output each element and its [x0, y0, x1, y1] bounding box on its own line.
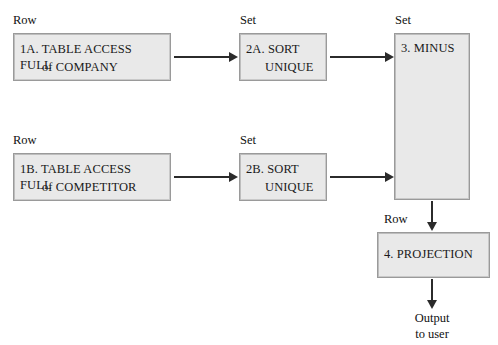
- arrowhead-2b-to-minus: [385, 172, 394, 182]
- diagram-canvas: Row Set Set Row Set Row 1A. TABLE ACCESS…: [0, 0, 498, 345]
- arrowhead-2a-to-minus: [385, 52, 394, 62]
- node-1a-line2: of COMPANY: [42, 59, 166, 75]
- connector-minus-to-projection: [431, 201, 433, 224]
- node-4-line1: 4. PROJECTION: [384, 246, 485, 262]
- node-projection[interactable]: 4. PROJECTION: [377, 232, 490, 278]
- connector-projection-to-output: [431, 279, 433, 302]
- node-sort-unique-b[interactable]: 2B. SORT UNIQUE: [239, 153, 327, 201]
- node-2a-line1: 2A. SORT: [246, 41, 322, 57]
- arrowhead-1a-to-2a: [229, 52, 238, 62]
- caption-row-above-projection: Row: [384, 212, 408, 227]
- node-table-access-full-competitor[interactable]: 1B. TABLE ACCESS FULL of COMPETITOR: [13, 153, 171, 201]
- caption-set-above-2b: Set: [240, 133, 256, 148]
- node-2b-line1: 2B. SORT: [246, 161, 322, 177]
- caption-row-above-1b: Row: [13, 133, 37, 148]
- connector-2b-to-minus: [330, 176, 386, 178]
- node-2b-line2: UNIQUE: [265, 179, 322, 195]
- caption-set-above-2a: Set: [240, 13, 256, 28]
- connector-1a-to-2a: [174, 56, 230, 58]
- node-3-line1: 3. MINUS: [401, 40, 465, 56]
- arrowhead-projection-to-output: [427, 300, 437, 309]
- output-label-line2: to user: [382, 326, 482, 342]
- node-table-access-full-company[interactable]: 1A. TABLE ACCESS FULL of COMPANY: [13, 33, 171, 81]
- node-2a-line2: UNIQUE: [265, 59, 322, 75]
- connector-2a-to-minus: [330, 56, 386, 58]
- caption-set-above-minus: Set: [395, 13, 411, 28]
- arrowhead-minus-to-projection: [427, 222, 437, 231]
- arrowhead-1b-to-2b: [229, 172, 238, 182]
- node-minus[interactable]: 3. MINUS: [394, 33, 470, 200]
- output-label-line1: Output: [382, 310, 482, 326]
- connector-1b-to-2b: [174, 176, 230, 178]
- node-1b-line2: of COMPETITOR: [42, 179, 166, 195]
- node-sort-unique-a[interactable]: 2A. SORT UNIQUE: [239, 33, 327, 81]
- caption-row-above-1a: Row: [13, 13, 37, 28]
